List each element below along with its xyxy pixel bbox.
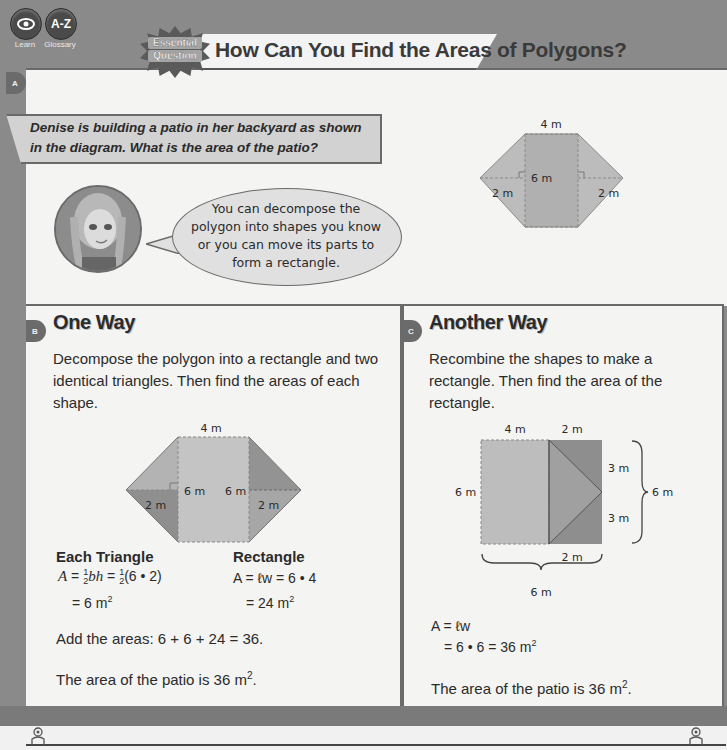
page-title: How Can You Find the Areas of Polygons?	[215, 38, 626, 62]
footer	[0, 726, 727, 750]
section-divider	[400, 304, 402, 706]
label-bottom-inner: 2 m	[561, 551, 582, 564]
triangle-formula: A = 12bh = 12(6 • 2)	[58, 568, 162, 586]
section-c-conclusion: The area of the patio is 36 m2.	[431, 674, 632, 700]
footer-rule	[26, 744, 726, 746]
label-lower-right: 3 m	[608, 512, 629, 525]
recombined-diagram: 4 m 2 m 6 m 3 m 3 m 6 m 2 m 6 m	[440, 415, 710, 605]
eye-icon[interactable]	[10, 8, 42, 40]
label-top-left: 4 m	[504, 423, 525, 436]
label-right-base: 2 m	[598, 187, 619, 200]
label-upper-right: 3 m	[608, 462, 629, 475]
rectangle-result: = 24 m2	[246, 594, 294, 611]
label-left-base: 2 m	[492, 187, 513, 200]
label-left: 6 m	[455, 486, 476, 499]
triangle-heading: Each Triangle	[56, 548, 154, 565]
label-right-height: 6 m	[225, 485, 246, 498]
section-b-heading: One Way	[53, 311, 135, 334]
section-c-heading: Another Way	[429, 311, 547, 334]
patio-diagram: 4 m 6 m 2 m 2 m	[470, 115, 660, 270]
learn-label: Learn	[5, 40, 45, 49]
triangle-result: = 6 m2	[72, 594, 112, 611]
label-left-height: 6 m	[184, 485, 205, 498]
speech-text: You can decompose the polygon into shape…	[186, 200, 386, 272]
section-b-conclusion: The area of the patio is 36 m2.	[56, 665, 257, 691]
label-top: 4 m	[540, 118, 561, 131]
label-right-base: 2 m	[258, 499, 279, 512]
person-icon-left[interactable]	[30, 727, 46, 745]
glossary-nav[interactable]: A-Z Glossary	[45, 8, 80, 49]
decomposed-diagram: 4 m 6 m 6 m 2 m 2 m	[110, 420, 330, 545]
rectangle-heading: Rectangle	[233, 548, 305, 565]
section-c-formula-2: = 6 • 6 = 36 m2	[444, 638, 536, 655]
glossary-label: Glossary	[40, 40, 80, 49]
problem-text: Denise is building a patio in her backya…	[30, 118, 375, 158]
label-left-base: 2 m	[145, 499, 166, 512]
section-c-intro: Recombine the shapes to make a rectangle…	[429, 348, 699, 414]
section-c-formula-1: A = ℓw	[431, 618, 470, 634]
glossary-icon[interactable]: A-Z	[45, 8, 77, 40]
sum-text: Add the areas: 6 + 6 + 24 = 36.	[56, 628, 263, 650]
label-top-right: 2 m	[561, 423, 582, 436]
avatar	[54, 185, 142, 273]
label-brace-bottom: 6 m	[530, 586, 551, 599]
person-icon-right[interactable]	[688, 727, 704, 745]
bottom-strip	[0, 706, 727, 726]
essential-question-badge: Essential Question	[148, 36, 202, 63]
section-b-intro: Decompose the polygon into a rectangle a…	[53, 348, 383, 414]
section-a-tab: A	[6, 72, 26, 94]
badge-line-1: Essential	[148, 37, 202, 49]
badge-line-2: Question	[148, 50, 202, 62]
label-top: 4 m	[200, 422, 221, 435]
rectangle-formula: A = ℓw = 6 • 4	[233, 570, 316, 586]
label-brace-right: 6 m	[652, 486, 673, 499]
label-height: 6 m	[531, 172, 552, 185]
